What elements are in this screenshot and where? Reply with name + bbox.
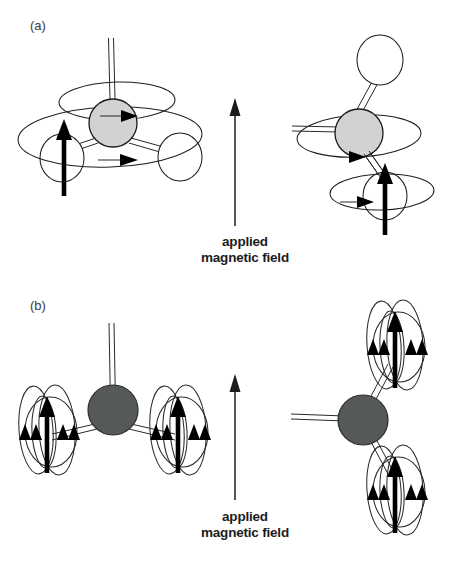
- applied-field-label-line1-b: applied: [222, 509, 268, 524]
- panel-a-label: (a): [30, 18, 46, 33]
- carbon-atom-b-right: [338, 395, 388, 445]
- hydrogen-atom-right-a-left: [158, 133, 202, 181]
- hydrogen-atom-top-a-right: [357, 35, 403, 85]
- applied-field-label-line2-a: magnetic field: [201, 250, 289, 265]
- applied-field-label-line2-b: magnetic field: [201, 525, 289, 540]
- carbon-atom-a-right: [335, 109, 383, 157]
- panel-b-label: (b): [30, 298, 46, 313]
- carbon-atom-b-left: [88, 385, 138, 435]
- carbon-atom-a-left: [89, 99, 137, 147]
- figure-root: (a): [0, 0, 451, 561]
- nmr-spin-diagram: (a): [0, 0, 451, 561]
- applied-field-label-line1-a: applied: [222, 234, 268, 249]
